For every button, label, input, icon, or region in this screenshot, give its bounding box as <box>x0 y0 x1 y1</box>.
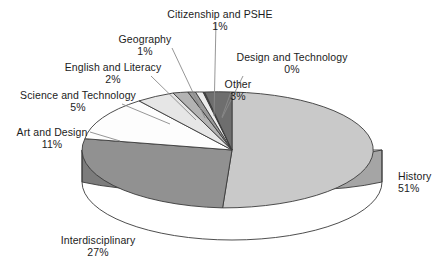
label-citizenship-and-pshe: Citizenship and PSHE 1% <box>150 8 290 32</box>
label-interdisciplinary: Interdisciplinary 27% <box>42 234 154 258</box>
label-english-percent: 2% <box>55 73 171 85</box>
label-history: History 51% <box>398 170 444 194</box>
label-art-percent: 11% <box>6 138 98 150</box>
label-art-and-design: Art and Design 11% <box>6 126 98 150</box>
label-english-name: English and Literacy <box>55 61 171 73</box>
pie-chart: Citizenship and PSHE 1% Geography 1% Des… <box>0 0 445 268</box>
slice-history <box>223 92 374 208</box>
label-design-tech-name: Design and Technology <box>222 51 362 63</box>
label-science-and-technology: Science and Technology 5% <box>12 89 144 113</box>
label-science-name: Science and Technology <box>12 89 144 101</box>
label-geography-name: Geography <box>102 33 188 45</box>
slice-interdisciplinary <box>82 139 232 208</box>
label-design-tech-percent: 0% <box>222 63 362 75</box>
label-geography-percent: 1% <box>102 45 188 57</box>
label-citizenship-name: Citizenship and PSHE <box>150 8 290 20</box>
label-english-and-literacy: English and Literacy 2% <box>55 61 171 85</box>
label-interdisciplinary-name: Interdisciplinary <box>42 234 154 246</box>
label-geography: Geography 1% <box>102 33 188 57</box>
label-other-percent: 3% <box>212 90 264 102</box>
label-science-percent: 5% <box>12 101 144 113</box>
label-history-name: History <box>398 170 444 182</box>
label-history-percent: 51% <box>398 182 444 194</box>
label-art-name: Art and Design <box>6 126 98 138</box>
label-interdisciplinary-percent: 27% <box>42 246 154 258</box>
label-citizenship-percent: 1% <box>150 20 290 32</box>
label-other: Other 3% <box>212 78 264 102</box>
label-other-name: Other <box>212 78 264 90</box>
label-design-and-technology: Design and Technology 0% <box>222 51 362 75</box>
